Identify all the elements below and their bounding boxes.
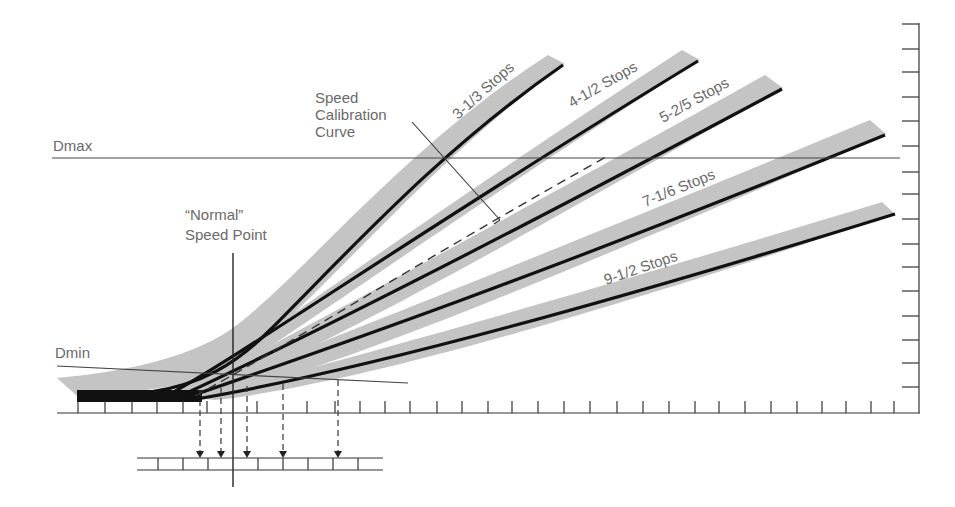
calibration-label-2: Calibration [315,106,387,123]
y-axis [902,23,919,413]
diagram-canvas: Dmax Dmin “Normal” Speed Point Speed Cal… [0,0,955,507]
arrowheads [196,451,342,458]
speed-scale [137,458,383,470]
speed-point-label-2: Speed Point [185,226,268,243]
dmax-label: Dmax [53,137,93,154]
speed-point-label-1: “Normal” [185,206,243,223]
x-axis [57,401,920,413]
calibration-label-1: Speed [315,89,358,106]
calibration-label-3: Curve [315,123,355,140]
dmin-label: Dmin [55,344,90,361]
